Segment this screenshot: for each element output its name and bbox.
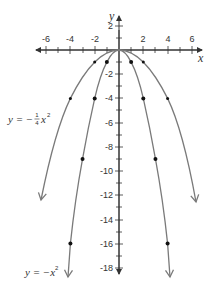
y-axis-ticks	[115, 26, 123, 268]
y-tick-label: -18	[100, 263, 113, 273]
x-tick-label: -6	[42, 34, 50, 44]
y-axis-label: y	[108, 9, 115, 23]
y-tick-label: -4	[105, 93, 113, 103]
parabola-graph: -6 -4 -2 2 4 6 x	[0, 0, 215, 285]
x-tick-label: 4	[165, 34, 170, 44]
x-tick-label: -4	[66, 34, 74, 44]
y-tick-label: -16	[100, 239, 113, 249]
equation-variable: x	[40, 113, 46, 125]
y-tick-label: -8	[105, 142, 113, 152]
x-tick-label: 6	[189, 34, 194, 44]
y-tick-label: -6	[105, 118, 113, 128]
equation-text: y = −x	[24, 266, 55, 278]
y-tick-label: -2	[105, 69, 113, 79]
equation-text: y = −	[7, 113, 33, 125]
x-tick-label: -2	[91, 34, 99, 44]
x-tick-label: 2	[140, 34, 145, 44]
fraction-numerator: 1	[35, 112, 39, 118]
fraction-denominator: 4	[35, 120, 39, 126]
equation-exponent: 2	[55, 265, 59, 271]
y-axis: 2 -2 -4 -6 -8 -10 -12 -14 -16 -18 y	[100, 9, 123, 274]
y-tick-label: -12	[100, 190, 113, 200]
equation-exponent: 2	[47, 112, 51, 118]
label-quarter-x-squared: y = − 1 4 x 2	[7, 112, 51, 126]
label-x-squared: y = −x 2	[24, 265, 59, 278]
y-tick-label: -14	[100, 215, 113, 225]
y-tick-label: -10	[100, 166, 113, 176]
x-axis-label: x	[197, 51, 204, 65]
